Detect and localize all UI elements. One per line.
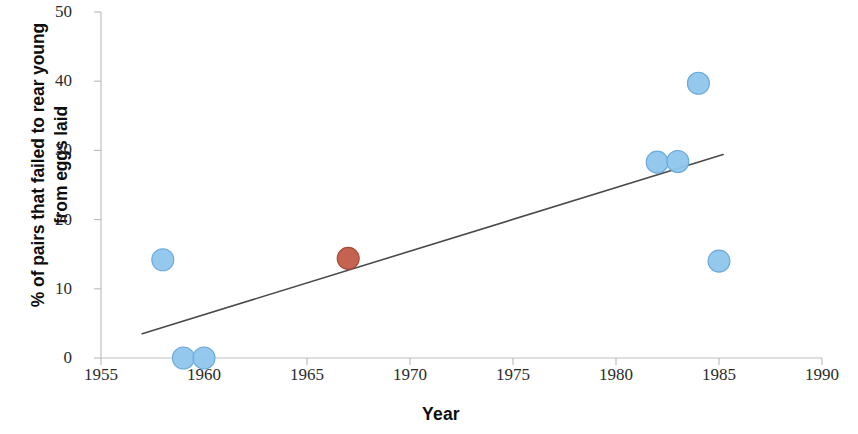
data-markers <box>152 72 730 369</box>
data-point-marker <box>193 347 215 369</box>
scatter-chart: % of pairs that failed to rear young fro… <box>0 0 858 434</box>
plot-area <box>0 0 858 434</box>
trend-line-segment <box>142 155 723 334</box>
trend-line <box>142 155 723 334</box>
data-point-marker <box>337 247 359 269</box>
data-point-marker <box>687 72 709 94</box>
data-point-marker <box>152 249 174 271</box>
data-point-marker <box>646 151 668 173</box>
axes <box>94 12 822 365</box>
data-point-marker <box>708 250 730 272</box>
data-point-marker <box>172 347 194 369</box>
data-point-marker <box>667 150 689 172</box>
